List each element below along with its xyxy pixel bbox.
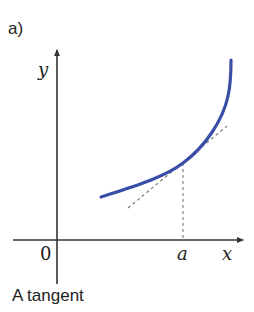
origin-label: 0: [40, 243, 51, 264]
diagram-graphics: [0, 0, 254, 312]
tangent-diagram: a) y 0 a x A tangent: [0, 0, 254, 312]
x-axis-label: x: [222, 243, 232, 264]
figure-caption: A tangent: [12, 286, 84, 306]
y-axis-label: y: [38, 59, 48, 80]
point-a-label: a: [177, 243, 188, 264]
panel-label: a): [8, 19, 23, 39]
